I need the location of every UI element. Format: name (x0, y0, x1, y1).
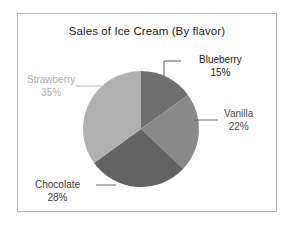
slice-label-blueberry-value: 15% (199, 67, 242, 80)
pie-slices (83, 71, 199, 187)
pie-chart: Blueberry 15% Vanilla 22% Chocolate 28% … (18, 14, 277, 212)
slice-label-vanilla: Vanilla 22% (224, 108, 253, 133)
slice-label-strawberry-name: Strawberry (27, 74, 75, 87)
chart-frame: Sales of Ice Cream (By flavor) Blueberry… (17, 13, 277, 212)
slice-label-chocolate-name: Chocolate (35, 179, 80, 192)
slice-label-vanilla-name: Vanilla (224, 108, 253, 121)
slice-label-blueberry: Blueberry 15% (199, 54, 242, 79)
slice-label-chocolate-value: 28% (35, 192, 80, 205)
slice-label-strawberry-value: 35% (27, 87, 75, 100)
slice-label-vanilla-value: 22% (224, 121, 253, 134)
slice-label-blueberry-name: Blueberry (199, 54, 242, 67)
slice-label-strawberry: Strawberry 35% (27, 74, 75, 99)
leader-line-blueberry (164, 61, 181, 76)
slice-label-chocolate: Chocolate 28% (35, 179, 80, 204)
